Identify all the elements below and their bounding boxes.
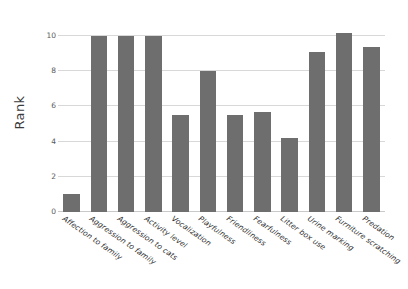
y-tick-label: 8 — [34, 67, 56, 75]
bar — [172, 115, 188, 212]
bar-chart: Rank 0246810 Affection to familyAggressi… — [0, 0, 408, 289]
bar — [309, 52, 325, 212]
y-axis-tick-labels: 0246810 — [34, 14, 56, 220]
bar — [145, 36, 161, 212]
y-tick-label: 10 — [34, 32, 56, 40]
bars-group — [58, 22, 385, 212]
bar — [254, 112, 270, 212]
x-axis-tick-labels: Affection to familyAggression to familyA… — [58, 214, 385, 289]
bar — [227, 115, 243, 212]
bar — [336, 33, 352, 212]
bar — [91, 36, 107, 212]
bar — [281, 138, 297, 212]
y-tick-label: 6 — [34, 102, 56, 110]
y-tick-label: 0 — [34, 208, 56, 216]
bar — [118, 36, 134, 212]
bar — [200, 71, 216, 212]
y-tick-label: 4 — [34, 138, 56, 146]
plot-area — [58, 22, 385, 212]
y-axis-title-text: Rank — [12, 95, 27, 129]
y-axis-title: Rank — [4, 72, 34, 152]
bar — [63, 194, 79, 212]
bar — [363, 47, 379, 212]
y-tick-label: 2 — [34, 173, 56, 181]
